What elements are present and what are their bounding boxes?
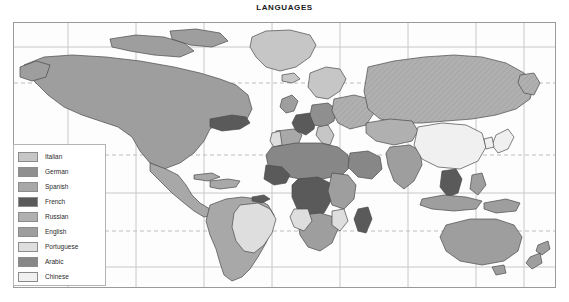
legend-label-portuguese: Portuguese: [45, 243, 78, 250]
legend-label-spanish: Spanish: [45, 183, 69, 190]
legend-swatch-arabic: [18, 257, 38, 267]
legend-label-english: English: [45, 228, 66, 235]
legend-item-english: English: [18, 224, 105, 239]
legend-swatch-spanish: [18, 182, 38, 192]
legend-swatch-chinese: [18, 272, 38, 282]
legend-item-arabic: Arabic: [18, 254, 105, 269]
legend-swatch-portuguese: [18, 242, 38, 252]
map-legend: Italian German Spanish French Russian En…: [13, 144, 106, 286]
legend-item-spanish: Spanish: [18, 179, 105, 194]
legend-label-german: German: [45, 168, 68, 175]
legend-label-italian: Italian: [45, 153, 62, 160]
legend-swatch-german: [18, 167, 38, 177]
page-title: LANGUAGES: [0, 3, 569, 12]
legend-swatch-italian: [18, 152, 38, 162]
legend-item-portuguese: Portuguese: [18, 239, 105, 254]
legend-label-arabic: Arabic: [45, 258, 63, 265]
legend-swatch-russian: [18, 212, 38, 222]
legend-swatch-english: [18, 227, 38, 237]
legend-item-german: German: [18, 164, 105, 179]
legend-item-chinese: Chinese: [18, 269, 105, 284]
legend-swatch-french: [18, 197, 38, 207]
legend-item-italian: Italian: [18, 149, 105, 164]
legend-label-french: French: [45, 198, 65, 205]
legend-item-french: French: [18, 194, 105, 209]
legend-label-russian: Russian: [45, 213, 68, 220]
region-korea: [484, 137, 494, 149]
legend-item-russian: Russian: [18, 209, 105, 224]
legend-label-chinese: Chinese: [45, 273, 69, 280]
